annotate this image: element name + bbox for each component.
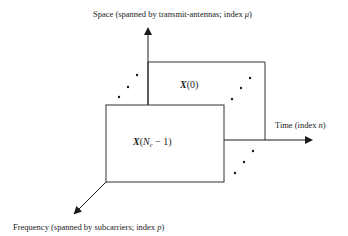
back-matrix-label: X(0)	[180, 79, 198, 90]
ellipsis-dots-left	[118, 74, 138, 98]
ellipsis-dots-right-bottom	[234, 150, 254, 174]
diagram-canvas	[0, 0, 348, 236]
frequency-axis-arrow	[75, 182, 106, 213]
space-label-suffix: )	[249, 9, 252, 19]
ellipsis-dots-right-top	[231, 77, 251, 100]
space-label-text: Space (spanned by transmit-antennas; ind…	[93, 9, 245, 19]
back-matrix-arg: (0)	[187, 79, 199, 90]
frequency-axis-label: Frequency (spanned by subcarriers; index…	[13, 222, 164, 232]
frequency-label-text: Frequency (spanned by subcarriers; index	[13, 222, 157, 232]
front-matrix-rest: − 1)	[153, 136, 172, 147]
front-matrix-label: X(Nc − 1)	[133, 136, 172, 148]
front-matrix-symbol: X	[133, 136, 140, 147]
time-label-text: Time (index	[275, 120, 319, 130]
front-matrix-var: N	[143, 136, 150, 147]
space-axis-label: Space (spanned by transmit-antennas; ind…	[93, 9, 252, 19]
time-axis-label: Time (index n)	[275, 120, 326, 130]
back-matrix-symbol: X	[180, 79, 187, 90]
frequency-label-suffix: )	[161, 222, 164, 232]
time-label-suffix: )	[323, 120, 326, 130]
